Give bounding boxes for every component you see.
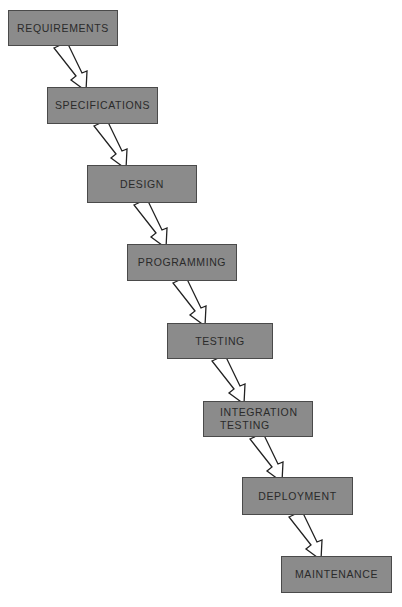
flow-arrow-icon [250, 433, 283, 482]
flow-arrow-icon [54, 42, 87, 91]
flow-arrow-icon [212, 355, 245, 404]
stage-label: DEPLOYMENT [258, 490, 336, 503]
stage-requirements: REQUIREMENTS [8, 10, 118, 46]
arrow-specifications-to-design [94, 120, 127, 169]
stage-deployment: DEPLOYMENT [242, 477, 353, 515]
flow-arrow-icon [94, 120, 127, 169]
stage-label: DESIGN [120, 178, 164, 191]
stage-label: REQUIREMENTS [17, 22, 109, 35]
stage-integration-testing: INTEGRATION TESTING [203, 401, 313, 437]
arrow-deployment-to-maintenance [289, 511, 322, 560]
stage-label: PROGRAMMING [138, 256, 226, 269]
stage-label: INTEGRATION TESTING [220, 406, 298, 432]
arrow-programming-to-testing [173, 277, 206, 326]
arrow-requirements-to-specifications [54, 42, 87, 91]
stage-design: DESIGN [87, 165, 197, 203]
flow-arrow-icon [134, 199, 167, 248]
stage-maintenance: MAINTENANCE [281, 556, 392, 593]
arrow-design-to-programming [134, 199, 167, 248]
stage-programming: PROGRAMMING [127, 244, 237, 281]
stage-testing: TESTING [167, 323, 273, 359]
arrow-testing-to-integration-testing [212, 355, 245, 404]
arrow-integration-testing-to-deployment [250, 433, 283, 482]
stage-label: TESTING [195, 335, 245, 348]
stage-specifications: SPECIFICATIONS [47, 87, 158, 124]
flow-arrow-icon [173, 277, 206, 326]
flow-arrow-icon [289, 511, 322, 560]
stage-label: MAINTENANCE [295, 568, 378, 581]
stage-label: SPECIFICATIONS [55, 99, 150, 112]
waterfall-diagram: REQUIREMENTS SPECIFICATIONS DESIGN PROGR… [0, 0, 402, 607]
